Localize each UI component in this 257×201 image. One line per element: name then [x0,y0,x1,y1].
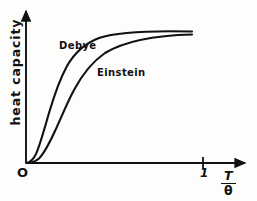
x-axis-tick-label-one: 1 [200,166,208,180]
curve-label-debye: Debye [59,40,97,51]
heat-capacity-figure: heat capacity Debye Einstein O 1 T θ [0,0,257,201]
y-axis-title: heat capacity [8,30,23,126]
x-axis-title: T θ [221,169,236,197]
origin-label: O [17,165,28,180]
x-axis-title-numerator: T [221,169,236,182]
plot-area [0,0,257,201]
x-axis-title-denominator: θ [221,184,236,197]
curve-label-einstein: Einstein [97,67,146,78]
einstein-curve [27,35,193,164]
